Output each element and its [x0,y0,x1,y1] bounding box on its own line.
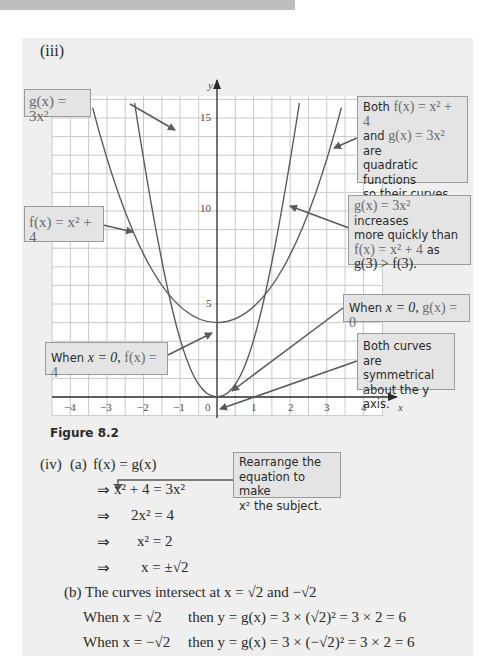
part-b-then2: then y = g(x) = 3 × (−√2)² = 3 × 2 = 6 [188,634,415,651]
equation-a3: x² = 2 [137,533,172,550]
implies-3: ⇒ [97,533,110,551]
rearrange-arrow [0,0,493,656]
equation-a4: x = ±√2 [141,559,188,576]
implies-2: ⇒ [97,507,110,525]
part-b-then1: then y = g(x) = 3 × (√2)² = 3 × 2 = 6 [188,609,406,626]
equation-a2: 2x² = 4 [131,507,174,524]
equation-a1: x² + 4 = 3x² [114,481,185,498]
implies-1: ⇒ [97,481,110,499]
part-b-when2: When x = −√2 [83,634,170,651]
implies-4: ⇒ [97,559,110,577]
part-b-line: (b) The curves intersect at x = √2 and −… [64,584,317,601]
part-b-when1: When x = √2 [83,609,162,626]
